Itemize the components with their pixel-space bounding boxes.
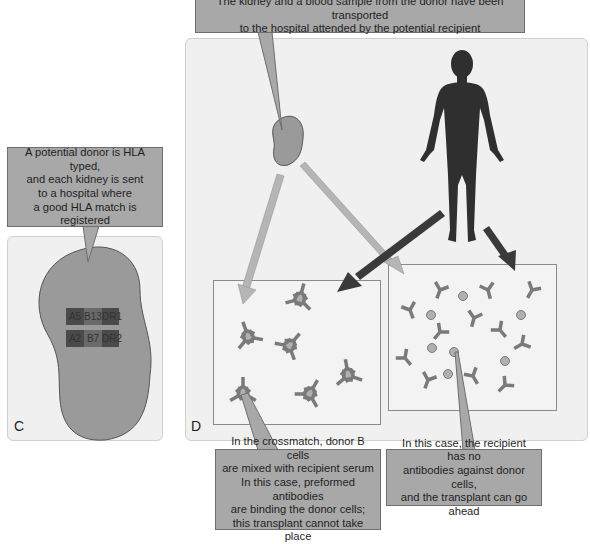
hla-row-1: A5 B13 DR1 — [66, 308, 119, 325]
arrow-human-to-right-box — [483, 226, 516, 271]
callout-line: and the transplant can go ahead — [393, 491, 535, 518]
human-silhouette-icon — [420, 50, 504, 242]
callout-pointer-top — [258, 32, 282, 130]
callout-crossmatch-negative: In this case, the recipient has no antib… — [386, 449, 542, 506]
callout-line: antibodies against donor cells, — [393, 464, 535, 491]
panel-label-d: D — [191, 418, 201, 434]
callout-line: are binding the donor cells; — [222, 503, 374, 517]
panel-label-c: C — [14, 418, 24, 434]
hla-cell: A5 — [66, 308, 84, 325]
hla-cell: A2 — [66, 330, 84, 347]
callout-hla-typing: A potential donor is HLA typed, and each… — [7, 147, 163, 227]
free-antibodies — [396, 281, 541, 396]
callout-line: this transplant cannot take place — [222, 517, 374, 544]
callout-line: In this case, preformed antibodies — [222, 476, 374, 503]
hla-row-2: A2 B7 DR2 — [66, 330, 119, 347]
arrow-kidney-to-left-box — [238, 174, 284, 304]
callout-line: are mixed with recipient serum — [222, 462, 374, 476]
callout-line: registered — [14, 214, 156, 228]
callout-line: In this case, the recipient has no — [393, 437, 535, 464]
callout-line: to a hospital where — [14, 187, 156, 201]
callout-pointer-bottom-right — [455, 352, 475, 450]
free-donor-cells — [427, 292, 526, 379]
callout-line: to the hospital attended by the potentia… — [202, 22, 518, 36]
callout-transport: The kidney and a blood sample from the d… — [195, 0, 525, 33]
hla-cell: B7 — [84, 330, 102, 347]
callout-crossmatch-positive: In the crossmatch, donor B cells are mix… — [215, 449, 381, 530]
kidney-small-icon — [273, 116, 304, 165]
callout-line: A potential donor is HLA typed, — [14, 146, 156, 173]
hla-cell: B13 — [84, 308, 102, 325]
callout-line: and each kidney is sent — [14, 173, 156, 187]
hla-cell: DR2 — [102, 330, 119, 347]
callout-line: The kidney and a blood sample from the d… — [202, 0, 518, 22]
callout-line: In the crossmatch, donor B cells — [222, 435, 374, 462]
hla-cell: DR1 — [102, 308, 119, 325]
callout-line: a good HLA match is — [14, 201, 156, 215]
